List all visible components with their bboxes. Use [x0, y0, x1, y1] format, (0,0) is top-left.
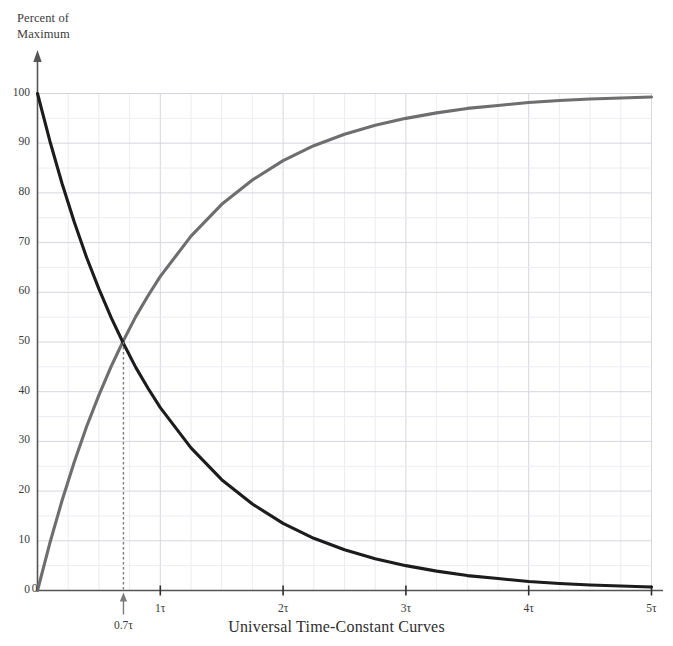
y-axis-tick-label: 30 [0, 433, 30, 445]
y-axis-tick-label: 80 [0, 185, 30, 197]
x-axis-tick-label: 5τ [632, 602, 672, 614]
x-axis-tick-label: 4τ [509, 602, 549, 614]
x-axis-tick-label: 1τ [140, 602, 180, 614]
y-axis-tick-label: 50 [0, 334, 30, 346]
y-axis-tick-label: 90 [0, 135, 30, 147]
y-axis-tick-label: 20 [0, 483, 30, 495]
annotation-arrowhead-icon [120, 593, 127, 602]
x-axis-tick-label: 0 [0, 582, 43, 594]
y-axis-tick-label: 100 [0, 86, 30, 98]
y-axis-arrowhead-icon [33, 50, 41, 62]
annotation-label-0-7-tau: 0.7τ [93, 619, 153, 631]
y-axis-title: Percent of Maximum [17, 10, 70, 42]
universal-time-constant-chart: Percent of Maximum Universal Time-Consta… [0, 0, 673, 646]
y-axis-tick-label: 60 [0, 284, 30, 296]
y-axis-tick-label: 10 [0, 533, 30, 545]
x-axis-tick-label: 3τ [386, 602, 426, 614]
x-axis-tick-label: 2τ [263, 602, 303, 614]
y-axis-tick-label: 70 [0, 235, 30, 247]
y-axis-tick-label: 40 [0, 384, 30, 396]
chart-plot-area [0, 0, 673, 646]
